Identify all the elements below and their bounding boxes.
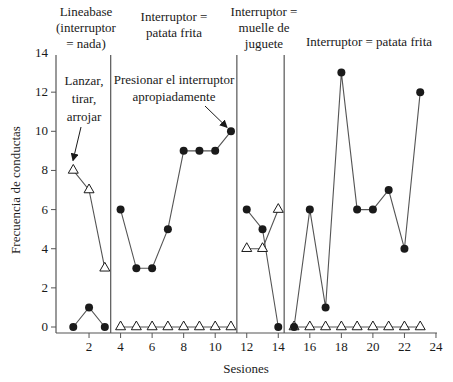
- x-tick-label: 16: [303, 339, 317, 354]
- annotation-throw: Lanzar,tirar,arrojar: [65, 73, 104, 124]
- open-triangle-marker: [399, 321, 409, 330]
- multiple-baseline-chart: 0246810121424681012141618202224 Lineabas…: [0, 0, 453, 382]
- phase-label-baseline: Lineabase(interruptor= nada): [56, 4, 117, 51]
- open-triangle-marker: [116, 321, 126, 330]
- open-triangle-marker: [131, 321, 141, 330]
- x-tick-label: 20: [366, 339, 379, 354]
- phase-label-patata-frita-2: Interruptor = patata frita: [306, 34, 432, 49]
- filled-circle-marker: [337, 69, 345, 77]
- filled-circle-marker: [69, 323, 77, 331]
- open-triangle-marker: [100, 262, 110, 271]
- annotation-press-arrow: [205, 106, 227, 127]
- filled-circle-marker: [148, 264, 156, 272]
- annotations: Lanzar,tirar,arrojarPresionar el interru…: [65, 72, 235, 160]
- x-axis-title: Sesiones: [223, 361, 269, 376]
- filled-circle-marker: [369, 206, 377, 214]
- filled-circle-marker: [132, 264, 140, 272]
- filled-circle-marker: [274, 323, 282, 331]
- y-tick-label: 8: [42, 162, 49, 177]
- y-tick-label: 14: [35, 45, 49, 60]
- press-switch-line: [294, 73, 420, 327]
- y-tick-label: 6: [42, 202, 49, 217]
- open-triangle-marker: [415, 321, 425, 330]
- open-triangle-marker: [68, 164, 78, 173]
- filled-circle-marker: [117, 206, 125, 214]
- open-triangle-marker: [258, 243, 268, 252]
- filled-circle-marker: [101, 323, 109, 331]
- open-triangle-marker: [321, 321, 331, 330]
- open-triangle-marker: [242, 243, 252, 252]
- filled-circle-marker: [290, 323, 298, 331]
- y-tick-label: 4: [42, 241, 49, 256]
- y-tick-label: 2: [42, 280, 49, 295]
- y-tick-label: 0: [42, 319, 49, 334]
- filled-circle-marker: [243, 206, 251, 214]
- open-triangle-marker: [163, 321, 173, 330]
- x-tick-label: 4: [117, 339, 124, 354]
- phase-label-patata-frita-1: Interruptor =patata frita: [141, 9, 208, 40]
- open-triangle-marker: [352, 321, 362, 330]
- x-tick-label: 8: [180, 339, 187, 354]
- x-tick-label: 18: [335, 339, 348, 354]
- filled-circle-marker: [400, 245, 408, 253]
- x-tick-label: 10: [209, 339, 222, 354]
- open-triangle-marker: [226, 321, 236, 330]
- filled-circle-marker: [85, 303, 93, 311]
- open-triangle-marker: [273, 204, 283, 213]
- open-triangle-marker: [147, 321, 157, 330]
- filled-circle-marker: [211, 147, 219, 155]
- open-triangle-marker: [305, 321, 315, 330]
- filled-circle-marker: [227, 127, 235, 135]
- data-markers: [68, 69, 425, 331]
- filled-circle-marker: [385, 186, 393, 194]
- filled-circle-marker: [306, 206, 314, 214]
- y-tick-label: 10: [35, 123, 48, 138]
- series-lines: [73, 73, 420, 327]
- phase-label-muelle-juguete: Interruptor =muelle dejuguete: [231, 4, 298, 51]
- open-triangle-marker: [179, 321, 189, 330]
- filled-circle-marker: [195, 147, 203, 155]
- y-tick-label: 12: [35, 84, 48, 99]
- filled-circle-marker: [259, 225, 267, 233]
- filled-circle-marker: [353, 206, 361, 214]
- open-triangle-marker: [210, 321, 220, 330]
- annotation-press-switch: Presionar el interruptorapropiadamente: [114, 72, 235, 104]
- x-tick-label: 14: [272, 339, 286, 354]
- filled-circle-marker: [416, 88, 424, 96]
- annotation-throw-arrow: [73, 127, 81, 160]
- open-triangle-marker: [368, 321, 378, 330]
- x-tick-label: 24: [429, 339, 443, 354]
- x-tick-label: 22: [398, 339, 411, 354]
- x-tick-label: 2: [86, 339, 93, 354]
- filled-circle-marker: [322, 303, 330, 311]
- filled-circle-marker: [164, 225, 172, 233]
- y-axis-title: Frecuencia de conductas: [8, 126, 23, 254]
- open-triangle-marker: [194, 321, 204, 330]
- phase-labels: Lineabase(interruptor= nada)Interruptor …: [56, 4, 432, 51]
- filled-circle-marker: [180, 147, 188, 155]
- open-triangle-marker: [336, 321, 346, 330]
- open-triangle-marker: [384, 321, 394, 330]
- x-tick-label: 12: [240, 339, 253, 354]
- x-tick-label: 6: [149, 339, 156, 354]
